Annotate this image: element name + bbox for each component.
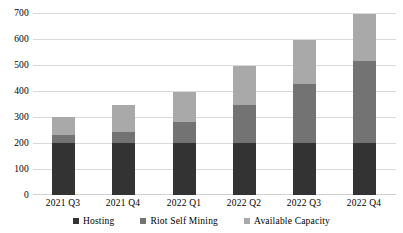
- segment-available-capacity: [353, 14, 376, 61]
- segment-available-capacity: [173, 92, 196, 122]
- legend-swatch-icon: [140, 218, 146, 224]
- y-tick-label: 700: [0, 8, 29, 18]
- segment-hosting: [293, 143, 316, 195]
- segment-riot-self-mining: [293, 84, 316, 143]
- segment-hosting: [233, 143, 256, 195]
- legend-swatch-icon: [73, 218, 79, 224]
- x-tick-label: 2022 Q3: [274, 197, 334, 209]
- segment-available-capacity: [233, 66, 256, 105]
- segment-riot-self-mining: [173, 122, 196, 143]
- y-axis: 700 600 500 400 300 200 100 0: [0, 0, 29, 233]
- gridline-100: [33, 169, 396, 170]
- x-tick-label: 2022 Q4: [334, 197, 394, 209]
- bar-2021-q3: [52, 117, 75, 195]
- segment-riot-self-mining: [52, 135, 75, 143]
- y-tick-label: 300: [0, 112, 29, 122]
- bar-2021-q4: [112, 105, 135, 195]
- x-tick-label: 2021 Q4: [93, 197, 153, 209]
- y-tick-label: 600: [0, 34, 29, 44]
- y-tick-label: 200: [0, 138, 29, 148]
- x-tick-label: 2021 Q3: [33, 197, 93, 209]
- segment-hosting: [112, 143, 135, 195]
- plot-area: [33, 13, 396, 195]
- legend-item-riot-self-mining: Riot Self Mining: [140, 215, 218, 227]
- segment-available-capacity: [112, 105, 135, 132]
- gridline-0: [33, 194, 396, 195]
- legend-label: Hosting: [83, 215, 115, 227]
- x-tick-label: 2022 Q1: [154, 197, 214, 209]
- segment-hosting: [52, 143, 75, 195]
- bar-2022-q1: [173, 92, 196, 195]
- legend-item-hosting: Hosting: [73, 215, 115, 227]
- y-tick-label: 100: [0, 164, 29, 174]
- segment-available-capacity: [52, 117, 75, 135]
- segment-riot-self-mining: [353, 61, 376, 144]
- y-tick-label: 500: [0, 60, 29, 70]
- legend-label: Riot Self Mining: [150, 215, 218, 227]
- stacked-bar-chart: 700 600 500 400 300 200 100 0 2021 Q3 20…: [0, 0, 403, 233]
- gridline-500: [33, 65, 396, 66]
- y-tick-label: 400: [0, 86, 29, 96]
- gridline-600: [33, 39, 396, 40]
- segment-available-capacity: [293, 40, 316, 84]
- segment-riot-self-mining: [233, 105, 256, 144]
- legend-label: Available Capacity: [254, 215, 330, 227]
- chart-legend: Hosting Riot Self Mining Available Capac…: [0, 212, 403, 230]
- segment-hosting: [173, 143, 196, 195]
- gridline-300: [33, 117, 396, 118]
- x-tick-label: 2022 Q2: [214, 197, 274, 209]
- bar-2022-q4: [353, 14, 376, 195]
- x-axis: 2021 Q3 2021 Q4 2022 Q1 2022 Q2 2022 Q3 …: [33, 196, 396, 212]
- legend-item-available-capacity: Available Capacity: [244, 215, 330, 227]
- bar-2022-q2: [233, 66, 256, 195]
- segment-riot-self-mining: [112, 132, 135, 143]
- gridline-200: [33, 143, 396, 144]
- y-tick-label: 0: [0, 190, 29, 200]
- legend-swatch-icon: [244, 218, 250, 224]
- gridline-700: [33, 13, 396, 14]
- segment-hosting: [353, 143, 376, 195]
- bar-2022-q3: [293, 40, 316, 195]
- gridline-400: [33, 91, 396, 92]
